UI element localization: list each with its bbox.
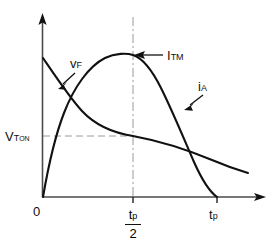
x-tick-label-half-tp: tp 2	[119, 206, 147, 240]
curve-anode-current	[43, 54, 217, 197]
curve-label-vf: vF	[70, 55, 82, 71]
diode-waveform-figure: 0 VTON tp 2 tp vF iA ITM	[0, 0, 276, 242]
tp-sub: p	[213, 211, 218, 221]
half-tp-denominator: 2	[119, 226, 147, 240]
curve-forward-voltage	[43, 58, 248, 173]
vton-subsub: ON	[19, 135, 30, 142]
origin-label: 0	[33, 205, 40, 218]
y-tick-label-vton: VTON	[5, 128, 30, 144]
origin-label-text: 0	[33, 204, 40, 219]
vf-sub: F	[77, 60, 83, 70]
annotation-label-itm: ITM	[167, 47, 184, 63]
half-tp-numerator: tp	[119, 206, 147, 223]
ia-label-arrow-shaft	[190, 95, 203, 105]
vton-base: V	[5, 129, 14, 144]
fraction-bar	[125, 224, 141, 225]
ia-label-arrowhead	[184, 103, 194, 111]
x-tick-label-tp: tp	[209, 206, 218, 222]
curve-label-ia: iA	[198, 78, 207, 94]
itm-sub: TM	[171, 52, 184, 62]
vf-label-arrow-shaft	[63, 73, 75, 84]
half-tp-sub: p	[132, 211, 137, 221]
ia-sub: A	[201, 83, 207, 93]
